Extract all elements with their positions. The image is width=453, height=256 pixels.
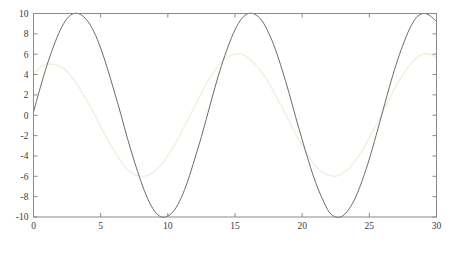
x-tick-label: 5 (98, 221, 103, 231)
x-tick-label: 15 (230, 221, 240, 231)
x-tick-label: 0 (31, 221, 36, 231)
y-tick-label: 4 (24, 70, 29, 80)
x-tick-label: 25 (365, 221, 375, 231)
y-tick-label: -10 (16, 212, 29, 222)
figure-container: 051015202530 -10-8-6-4-20246810 (0, 0, 453, 256)
y-tick-label: 0 (24, 111, 29, 121)
x-tick-label: 20 (297, 221, 307, 231)
y-tick-label: 2 (24, 90, 29, 100)
line-chart: 051015202530 -10-8-6-4-20246810 (0, 0, 453, 256)
y-tick-label: 10 (19, 9, 29, 19)
y-tick-label: 6 (24, 50, 29, 60)
x-tick-label: 10 (163, 221, 173, 231)
y-tick-label: -6 (21, 172, 29, 182)
plot-area-background (34, 14, 437, 218)
y-tick-label: -4 (21, 151, 29, 161)
y-tick-label: -8 (21, 192, 29, 202)
y-tick-label: -2 (21, 131, 29, 141)
x-tick-label: 30 (432, 221, 442, 231)
y-tick-label: 8 (24, 29, 29, 39)
